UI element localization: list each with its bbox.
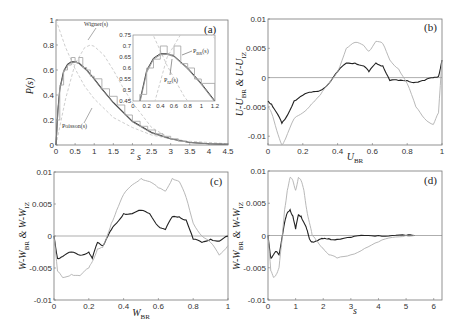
inset-y-tick: 0.6 [123,65,132,71]
x-tick-label: 6 [431,302,436,311]
y-tick-label: 0 [50,141,55,150]
x-tick-label: 0.8 [402,147,414,156]
wigner-arrow [88,28,96,40]
series-w-w-iz [54,178,228,277]
series-w-w-br [54,210,228,258]
y-tick-label: 0.005 [32,200,53,209]
series-layer [268,41,442,145]
y-tick-label: 0 [262,232,267,241]
x-tick-label: 1.5 [108,147,120,156]
panel-b-difference-plot: 00.20.40.60.81-0.01-0.00500.0050.01 (b) … [234,15,445,165]
y-axis-label: W-WBR & W-WIZ [17,202,31,270]
x-tick-label: 1 [293,302,298,311]
y-tick-label: 0.4 [43,91,55,100]
y-tick-label: 0.8 [43,41,55,50]
x-tick-label: 1 [92,147,97,156]
series-w-w-br [268,210,414,258]
inset-x-tick: 1 [200,103,204,109]
panel-c-difference-plot: 00.20.40.60.81-0.01-0.00500.0050.01 (c) … [17,168,231,321]
y-tick-label: -0.01 [248,296,267,305]
x-tick-label: 0.2 [297,147,309,156]
inset-y-tick: 0.5 [123,87,132,93]
x-tick-label: 0 [266,147,271,156]
x-tick-label: 4 [207,147,212,156]
x-tick-label: 0.4 [332,147,344,156]
x-tick-label: 1 [226,302,231,311]
x-tick-label: 0.6 [367,147,379,156]
series-layer [268,177,442,277]
inset-zoom-plot: 00.20.40.60.811.20.450.50.550.60.650.70.… [119,0,440,200]
panel-label: (a) [204,23,217,36]
panel-label: (d) [424,174,437,187]
y-axis-label: W-WBR & W-WIZ [231,202,245,270]
y-tick-label: 0.01 [250,15,266,24]
x-axis-label: UBR [347,151,364,165]
y-tick-label: 0.01 [36,168,52,177]
x-tick-label: 0 [54,147,59,156]
x-axis-label: s [353,305,357,316]
x-tick-label: 0.5 [70,147,82,156]
y-tick-label: 0 [262,74,267,83]
y-tick-label: 0.005 [246,199,267,208]
x-tick-label: 0 [52,302,57,311]
series-u-u-iz [268,41,442,145]
inset-x-tick: 0.4 [156,103,165,109]
x-axis-label: s [137,151,141,162]
inset-x-tick: 0.2 [142,103,151,109]
poisson-annotation: Poisson(s) [62,123,87,130]
y-tick-label: -0.005 [243,264,266,273]
inset-y-tick: 0.65 [119,54,131,60]
inset-y-tick: 0.75 [119,32,131,38]
inset-y-tick: 0.55 [119,76,131,82]
x-tick-label: 3.5 [184,147,196,156]
x-tick-label: 5 [404,302,409,311]
x-tick-label: 2 [321,302,326,311]
x-tick-label: 2 [130,147,135,156]
tick-labels: 00.20.40.60.81-0.01-0.00500.0050.01 [29,168,230,311]
x-tick-label: 0.8 [188,302,200,311]
panel-d-difference-plot: 0123456-0.01-0.00500.0050.01 (d) s W-WBR… [231,167,442,316]
panel-label: (b) [424,21,437,34]
x-tick-label: 3 [168,147,173,156]
y-axis-label: P(s) [24,77,36,95]
inset-x-tick: 1.2 [211,103,220,109]
inset-x-tick: 0.6 [170,103,179,109]
x-tick-label: 4 [376,302,381,311]
x-tick-label: 0.6 [153,302,165,311]
inset-y-tick: 0.45 [119,98,131,104]
y-tick-label: -0.005 [243,103,266,112]
y-tick-label: -0.005 [29,264,52,273]
y-tick-label: 0.005 [246,44,267,53]
y-tick-label: 0.01 [250,167,266,176]
figure: 00.511.522.533.544.500.20.40.60.81 (a) s… [0,0,460,329]
y-tick-label: 0.6 [43,66,55,75]
y-tick-label: 0.2 [43,116,55,125]
series-u-u-br [268,60,442,123]
tick-labels: 00.20.40.60.81-0.01-0.00500.0050.01 [243,15,444,156]
y-tick-label: -0.01 [248,132,267,141]
x-tick-label: 0.4 [118,302,130,311]
wigner-annotation: Wigner(s) [84,21,108,28]
inset-x-tick: 0.8 [183,103,192,109]
panel-a-distribution-plot: 00.511.522.533.544.500.20.40.60.81 (a) s… [24,0,441,200]
x-tick-label: 4.5 [222,147,234,156]
poisson-arrow [84,108,92,123]
x-tick-label: 2.5 [146,147,158,156]
x-tick-label: 1 [440,147,445,156]
series-layer [54,178,228,277]
y-tick-label: 1 [50,16,55,25]
y-tick-label: -0.01 [34,296,53,305]
x-tick-label: 0 [266,302,271,311]
y-tick-label: 0 [48,232,53,241]
panel-label: (c) [210,175,223,188]
x-tick-label: 0.2 [83,302,95,311]
inset-y-tick: 0.7 [123,43,132,49]
series-w-w-iz [268,177,414,277]
x-axis-label: WBR [132,307,150,321]
